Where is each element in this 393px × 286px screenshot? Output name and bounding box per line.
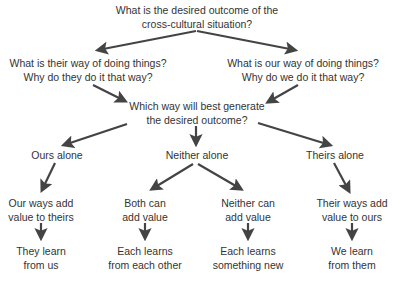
node-line: Neither alone bbox=[166, 148, 228, 162]
node-line: We learn bbox=[328, 244, 375, 258]
arrow-neither-alone-to-neither-can-add bbox=[198, 164, 241, 189]
arrow-root-to-our-way bbox=[197, 31, 295, 50]
node-line: Their ways add bbox=[316, 196, 387, 210]
node-line: Each learns bbox=[108, 244, 182, 258]
arrow-ours-alone-to-our-ways-add bbox=[42, 163, 55, 190]
node-line: Our ways add bbox=[8, 196, 73, 210]
node-their-ways-add-value: Their ways add value to ours bbox=[316, 196, 387, 224]
node-line: from each other bbox=[108, 258, 182, 272]
arrow-our-way-to-which-way bbox=[268, 85, 298, 102]
node-line: something new bbox=[213, 258, 284, 272]
node-line: Neither can bbox=[221, 196, 275, 210]
node-each-learns-something-new: Each learns something new bbox=[213, 244, 284, 272]
node-line: the desired outcome? bbox=[129, 113, 264, 127]
node-line: Each learns bbox=[213, 244, 284, 258]
node-line: Theirs alone bbox=[306, 148, 364, 162]
node-ours-alone: Ours alone bbox=[31, 148, 82, 162]
node-neither-alone: Neither alone bbox=[166, 148, 228, 162]
node-their-way-question: What is their way of doing things? Why d… bbox=[10, 56, 167, 84]
node-line: Why do we do it that way? bbox=[227, 70, 379, 84]
node-line: What is their way of doing things? bbox=[10, 56, 167, 70]
arrow-their-way-to-which-way bbox=[93, 85, 125, 101]
node-line: Which way will best generate bbox=[129, 99, 264, 113]
node-line: value to ours bbox=[316, 210, 387, 224]
node-neither-can-add-value: Neither can add value bbox=[221, 196, 275, 224]
node-which-way-question: Which way will best generate the desired… bbox=[129, 99, 264, 127]
arrow-root-to-their-way bbox=[98, 31, 196, 50]
node-desired-outcome-question: What is the desired outcome of the cross… bbox=[116, 3, 278, 31]
node-both-can-add-value: Both can add value bbox=[122, 196, 168, 224]
arrow-which-way-to-theirs-alone bbox=[258, 123, 330, 145]
node-line: from them bbox=[328, 258, 375, 272]
node-they-learn-from-us: They learn from us bbox=[16, 244, 66, 272]
node-theirs-alone: Theirs alone bbox=[306, 148, 364, 162]
node-line: Both can bbox=[122, 196, 168, 210]
node-line: add value bbox=[122, 210, 168, 224]
node-line: They learn bbox=[16, 244, 66, 258]
node-line: add value bbox=[221, 210, 275, 224]
node-line: cross-cultural situation? bbox=[116, 17, 278, 31]
node-line: What is the desired outcome of the bbox=[116, 3, 278, 17]
node-each-learns-from-each-other: Each learns from each other bbox=[108, 244, 182, 272]
node-line: value to theirs bbox=[8, 210, 73, 224]
node-line: from us bbox=[16, 258, 66, 272]
node-our-ways-add-value: Our ways add value to theirs bbox=[8, 196, 73, 224]
node-line: Why do they do it that way? bbox=[10, 70, 167, 84]
node-line: What is our way of doing things? bbox=[227, 56, 379, 70]
node-line: Ours alone bbox=[31, 148, 82, 162]
arrow-which-way-to-ours-alone bbox=[64, 124, 127, 145]
node-our-way-question: What is our way of doing things? Why do … bbox=[227, 56, 379, 84]
arrow-theirs-alone-to-their-ways-add bbox=[334, 163, 349, 191]
node-we-learn-from-them: We learn from them bbox=[328, 244, 375, 272]
arrow-neither-alone-to-both-can-add bbox=[152, 164, 193, 189]
